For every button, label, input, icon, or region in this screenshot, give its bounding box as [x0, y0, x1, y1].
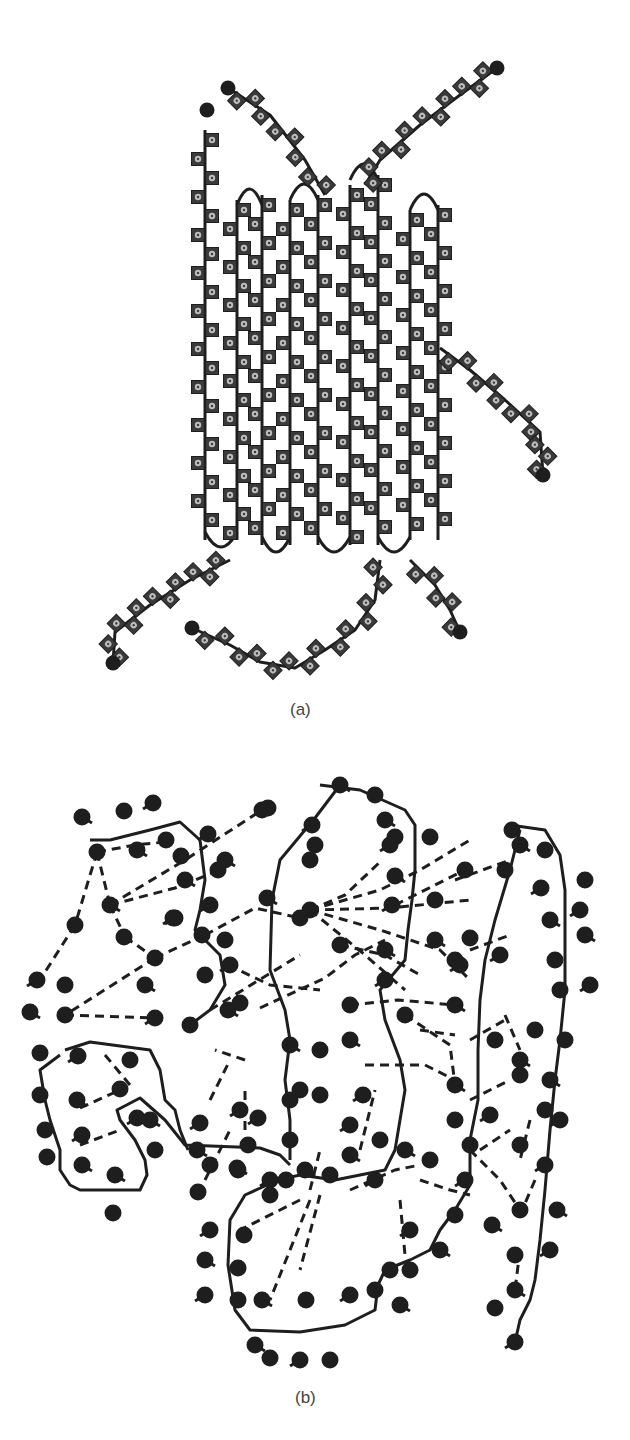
panel-b-label: (b) — [295, 1388, 316, 1408]
figure-canvas — [0, 0, 630, 1440]
panel-b-contact-network — [22, 777, 599, 1369]
panel-a-folded-chain — [99, 61, 557, 680]
panel-a-label: (a) — [290, 700, 311, 720]
